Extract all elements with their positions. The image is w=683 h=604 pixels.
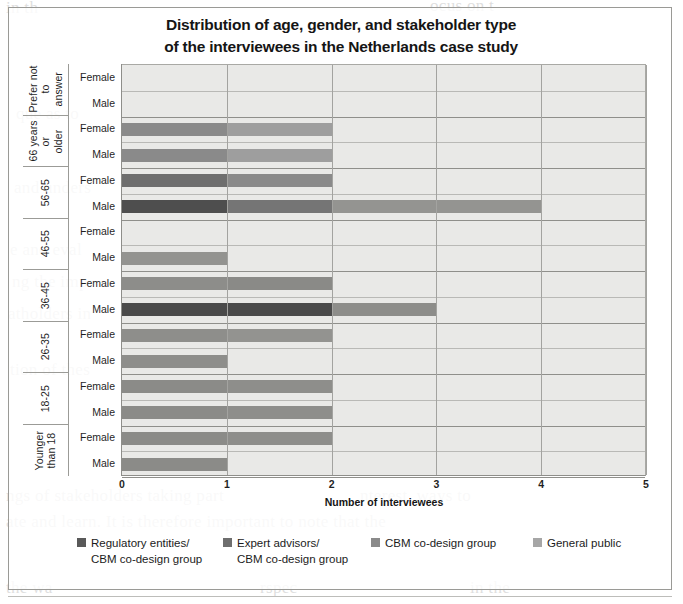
- vertical-gridline: [227, 65, 228, 475]
- y-axis-age-group-cell: 56-65: [23, 167, 68, 219]
- x-axis-title: Number of interviewees: [122, 496, 646, 508]
- page-divider: [8, 596, 672, 597]
- bar-stack: [122, 303, 436, 316]
- bar-segment: [122, 277, 227, 290]
- x-axis-tick-label: 3: [433, 478, 439, 490]
- bar-segment: [227, 174, 332, 187]
- chart-title-line-1: Distribution of age, gender, and stakeho…: [166, 16, 516, 33]
- x-axis-tick-label: 2: [329, 478, 335, 490]
- horizontal-gridline: [122, 91, 645, 92]
- y-axis-age-group-label: 18-25: [39, 385, 51, 412]
- bar-stack: [122, 458, 227, 471]
- y-axis-age-group-cell: 46-55: [23, 219, 68, 271]
- bar-segment: [122, 252, 227, 265]
- y-axis-age-group-cell: 66 years or older: [23, 116, 68, 168]
- y-axis-gender-label: Male: [69, 399, 121, 425]
- bar-segment: [122, 123, 227, 136]
- horizontal-gridline: [122, 117, 645, 118]
- vertical-gridline: [436, 65, 437, 475]
- legend-swatch-icon: [371, 538, 380, 547]
- y-axis-age-group-label: Prefer not to answer: [27, 64, 64, 115]
- horizontal-gridline: [122, 426, 645, 427]
- horizontal-gridline: [122, 451, 645, 452]
- horizontal-gridline: [122, 323, 645, 324]
- horizontal-gridline: [122, 245, 645, 246]
- horizontal-gridline: [122, 194, 645, 195]
- legend-swatch-icon: [77, 538, 86, 547]
- y-axis-age-group-label: 26-35: [39, 333, 51, 360]
- y-axis-gender-label: Female: [69, 270, 121, 296]
- bar-segment: [122, 406, 227, 419]
- bar-segment: [227, 329, 332, 342]
- legend-item[interactable]: Expert advisors/ CBM co-design group: [223, 535, 348, 568]
- legend-item[interactable]: General public: [533, 535, 621, 551]
- y-axis-gender-label: Female: [69, 64, 121, 90]
- bar-stack: [122, 355, 227, 368]
- horizontal-gridline: [122, 142, 645, 143]
- bar-segment: [227, 149, 332, 162]
- y-axis-age-group-cell: 36-45: [23, 270, 68, 322]
- horizontal-gridline: [122, 168, 645, 169]
- bar-segment: [227, 432, 332, 445]
- y-axis-gender-label: Female: [69, 373, 121, 399]
- bar-segment: [227, 406, 332, 419]
- x-axis-tick-label: 4: [538, 478, 544, 490]
- y-axis-gender-label: Male: [69, 347, 121, 373]
- y-axis-age-group-label: 56-65: [39, 179, 51, 206]
- bar-segment: [122, 149, 227, 162]
- y-axis-age-group-cell: Younger than 18: [23, 425, 68, 477]
- bar-segment: [122, 200, 227, 213]
- vertical-gridline: [646, 65, 647, 475]
- y-axis-gender-label: Male: [69, 296, 121, 322]
- y-axis-gender-label: Female: [69, 219, 121, 245]
- bar-stack: [122, 252, 227, 265]
- chart-title: Distribution of age, gender, and stakeho…: [9, 14, 673, 58]
- horizontal-gridline: [122, 348, 645, 349]
- legend-label: Expert advisors/ CBM co-design group: [237, 535, 348, 568]
- vertical-gridline: [541, 65, 542, 475]
- bar-segment: [227, 277, 332, 290]
- legend-label: CBM co-design group: [385, 535, 496, 551]
- y-axis-gender-label: Male: [69, 450, 121, 476]
- bar-segment: [332, 303, 437, 316]
- legend-swatch-icon: [223, 538, 232, 547]
- bar-segment: [227, 380, 332, 393]
- horizontal-gridline: [122, 220, 645, 221]
- x-axis-tick-label: 1: [224, 478, 230, 490]
- horizontal-gridline: [122, 271, 645, 272]
- figure-container: Distribution of age, gender, and stakeho…: [8, 7, 672, 590]
- horizontal-gridline: [122, 400, 645, 401]
- legend-item[interactable]: Regulatory entities/ CBM co-design group: [77, 535, 202, 568]
- bar-segment: [122, 329, 227, 342]
- y-axis-gender-label: Male: [69, 90, 121, 116]
- y-axis-gender-label: Male: [69, 244, 121, 270]
- bar-segment: [122, 174, 227, 187]
- y-axis-age-groups: Prefer not to answer66 years or older56-…: [23, 64, 69, 476]
- bar-segment: [122, 355, 227, 368]
- bar-segment: [122, 380, 227, 393]
- x-axis-tick-label: 5: [643, 478, 649, 490]
- legend-item[interactable]: CBM co-design group: [371, 535, 496, 551]
- y-axis-gender-labels: FemaleMaleFemaleMaleFemaleMaleFemaleMale…: [69, 64, 122, 476]
- legend-label: General public: [547, 535, 621, 551]
- x-axis-tick-labels: 012345: [122, 478, 646, 496]
- legend-swatch-icon: [533, 538, 542, 547]
- y-axis-age-group-label: 66 years or older: [27, 116, 64, 167]
- bar-segment: [227, 123, 332, 136]
- horizontal-gridline: [122, 297, 645, 298]
- bar-segment: [227, 200, 332, 213]
- y-axis-age-group-label: 46-55: [39, 230, 51, 257]
- y-axis-gender-label: Male: [69, 193, 121, 219]
- y-axis-age-group-cell: 18-25: [23, 373, 68, 425]
- y-axis-gender-label: Female: [69, 167, 121, 193]
- chart-legend: Regulatory entities/ CBM co-design group…: [23, 535, 663, 579]
- bar-segment: [122, 432, 227, 445]
- y-axis-gender-label: Male: [69, 141, 121, 167]
- y-axis-gender-label: Female: [69, 322, 121, 348]
- y-axis-gender-label: Female: [69, 425, 121, 451]
- y-axis-age-group-label: Younger than 18: [33, 431, 58, 470]
- vertical-gridline: [332, 65, 333, 475]
- plot-wrapper: Prefer not to answer66 years or older56-…: [23, 64, 663, 489]
- y-axis-gender-label: Female: [69, 116, 121, 142]
- horizontal-gridline: [122, 374, 645, 375]
